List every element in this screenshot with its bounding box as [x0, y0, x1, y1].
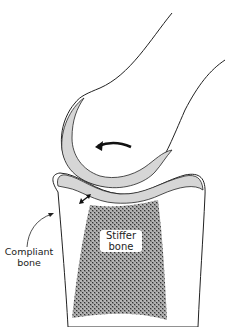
upper-bone: [61, 13, 225, 188]
compliant-bone-label: Compliant bone: [4, 246, 54, 268]
compliant-label-line2: bone: [4, 257, 54, 268]
stiffer-label-line1: Stiffer: [101, 230, 141, 241]
stiffer-label-line2: bone: [101, 241, 141, 252]
joint-diagram: Stiffer bone Compliant bone: [0, 0, 230, 327]
compliant-label-line1: Compliant: [4, 246, 54, 257]
compliant-pointer: [27, 214, 52, 247]
stiffer-bone-label: Stiffer bone: [100, 230, 142, 252]
joint-diagram-svg: [0, 0, 230, 327]
